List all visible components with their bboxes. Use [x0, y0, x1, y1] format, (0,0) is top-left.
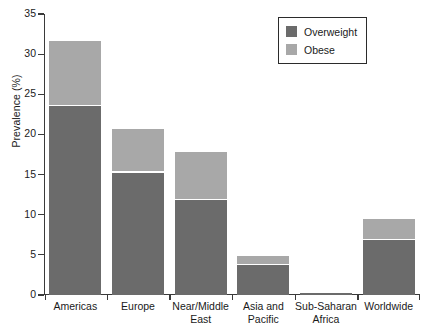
y-axis-tick-label: 5 [6, 249, 36, 260]
bar-worldwide [363, 219, 415, 295]
y-axis-tick [38, 54, 44, 55]
obese-swatch-icon [286, 44, 297, 55]
bar-segment-divider [112, 171, 164, 173]
bar-segment-obese [175, 152, 227, 199]
y-axis-tick-label: 30 [6, 48, 36, 59]
bar-segment-divider [363, 239, 415, 241]
legend-item-obese: Obese [286, 42, 357, 57]
x-axis-label-line: Africa [282, 313, 370, 326]
legend-item-overweight: Overweight [286, 24, 357, 39]
y-axis-tick [38, 94, 44, 95]
chart-legend: Overweight Obese [278, 17, 367, 64]
bar-segment-overweight [112, 172, 164, 295]
bar-segment-overweight [175, 199, 227, 295]
y-axis-tick-label: 0 [6, 289, 36, 300]
bar-segment-overweight [363, 240, 415, 295]
legend-label-obese: Obese [304, 44, 335, 56]
y-axis-tick [38, 13, 44, 14]
y-axis-title: Prevalence (%) [10, 51, 22, 171]
y-axis-tick-label: 35 [6, 8, 36, 19]
y-axis-tick [38, 254, 44, 255]
y-axis-tick [38, 134, 44, 135]
y-axis-line [44, 14, 45, 295]
bar-sub-saharan-africa [300, 293, 352, 295]
overweight-swatch-icon [286, 26, 297, 37]
bar-segment-obese [363, 219, 415, 240]
bar-segment-overweight [237, 265, 289, 296]
y-axis-tick-label: 15 [6, 169, 36, 180]
bar-segment-divider [237, 264, 289, 266]
y-axis-tick [38, 214, 44, 215]
bar-segment-overweight [49, 106, 101, 295]
y-axis-tick [38, 174, 44, 175]
x-axis-label-line: Worldwide [345, 300, 425, 313]
bar-europe [112, 129, 164, 295]
x-axis-label-worldwide: Worldwide [345, 300, 425, 313]
bar-segment-obese [112, 129, 164, 172]
y-axis-tick [38, 294, 44, 295]
bar-segment-divider [175, 199, 227, 201]
y-axis-tick-label: 10 [6, 209, 36, 220]
y-axis-tick-label: 20 [6, 128, 36, 139]
bar-segment-divider [49, 105, 101, 107]
stacked-bar-chart: Prevalence (%) 05101520253035 AmericasEu… [0, 0, 425, 336]
bar-asia-and-pacific [237, 256, 289, 295]
bar-segment-obese [49, 41, 101, 106]
bar-near-middle-east [175, 152, 227, 295]
bar-segment-overweight [300, 293, 352, 295]
legend-label-overweight: Overweight [304, 26, 357, 38]
y-axis-tick-label: 25 [6, 88, 36, 99]
bar-americas [49, 41, 101, 296]
